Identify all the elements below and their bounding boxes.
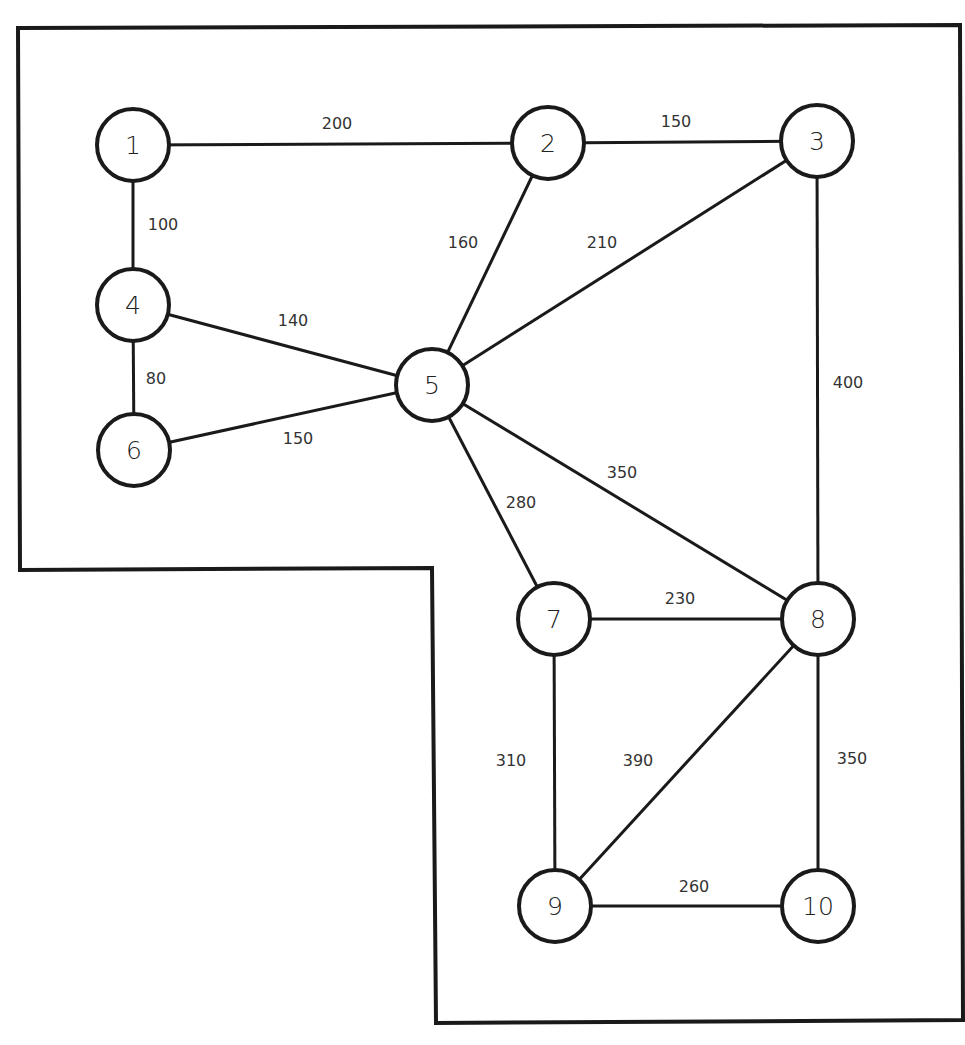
node-label: 2 <box>540 129 556 158</box>
edge-weight-label: 150 <box>661 112 692 131</box>
node-label: 7 <box>546 605 562 634</box>
edge-weight-label: 280 <box>506 493 537 512</box>
edge-1-2 <box>133 143 548 145</box>
node-3: 3 <box>779 103 855 179</box>
edge-weight-label: 390 <box>623 751 654 770</box>
node-label: 3 <box>809 127 825 156</box>
edge-weight-label: 350 <box>837 749 868 768</box>
edge-weight-label: 200 <box>322 114 353 133</box>
node-1: 1 <box>95 107 171 183</box>
node-label: 9 <box>547 892 563 921</box>
edge-weight-label: 350 <box>607 463 638 482</box>
node-8: 8 <box>780 581 856 657</box>
edge-3-8 <box>817 141 818 619</box>
edge-7-9 <box>554 619 555 906</box>
edge-weight-label: 260 <box>679 877 710 896</box>
node-label: 8 <box>810 605 826 634</box>
node-2: 2 <box>510 105 586 181</box>
node-7: 7 <box>516 581 592 657</box>
node-9: 9 <box>517 868 593 944</box>
edge-weight-label: 80 <box>146 369 166 388</box>
node-label: 4 <box>125 291 141 320</box>
edge-5-8 <box>432 385 818 619</box>
node-label: 6 <box>126 436 142 465</box>
edge-weight-label: 210 <box>587 233 618 252</box>
node-label: 5 <box>424 371 440 400</box>
edge-weight-label: 160 <box>448 233 479 252</box>
node-5: 5 <box>394 347 470 423</box>
edge-weight-label: 100 <box>148 215 179 234</box>
node-label: 1 <box>125 131 141 160</box>
edge-2-3 <box>548 141 817 143</box>
edge-weight-label: 150 <box>283 429 314 448</box>
node-6: 6 <box>96 412 172 488</box>
node-label: 10 <box>802 892 834 921</box>
edge-weight-label: 400 <box>833 373 864 392</box>
node-4: 4 <box>95 267 171 343</box>
edge-weight-label: 310 <box>496 751 527 770</box>
node-10: 10 <box>780 868 856 944</box>
edge-weight-label: 140 <box>278 311 309 330</box>
edge-weight-label: 230 <box>665 589 696 608</box>
edge-8-9 <box>555 619 818 906</box>
edge-layer <box>133 141 818 906</box>
